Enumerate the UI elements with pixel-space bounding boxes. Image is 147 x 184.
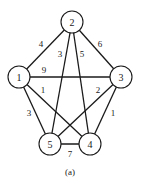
node-label: 3 <box>119 72 124 83</box>
edge-2-4 <box>72 22 90 144</box>
edge-weight-1-2: 4 <box>39 39 44 49</box>
edge-weight-1-4: 1 <box>41 85 46 95</box>
edge-weight-1-5: 3 <box>27 108 32 118</box>
edge-weight-3-4: 1 <box>111 108 116 118</box>
edge-weight-5-4: 7 <box>68 149 73 159</box>
node-label: 4 <box>88 139 93 150</box>
node-label: 5 <box>48 139 53 150</box>
figure-caption: (a) <box>65 167 75 177</box>
node-label: 2 <box>70 17 75 28</box>
edge-weight-2-4: 5 <box>80 49 85 59</box>
edges <box>19 22 121 144</box>
node-5: 5 <box>39 133 61 155</box>
weighted-graph-diagram: 4 3 5 6 9 1 2 3 1 7 1 2 3 4 5 <box>0 0 147 184</box>
node-4: 4 <box>79 133 101 155</box>
node-label: 1 <box>17 72 22 83</box>
node-1: 1 <box>8 66 30 88</box>
edge-weight-1-3: 9 <box>42 65 47 75</box>
node-3: 3 <box>110 66 132 88</box>
edge-weight-2-3: 6 <box>98 39 103 49</box>
nodes: 1 2 3 4 5 <box>8 11 132 155</box>
edge-weight-3-5: 2 <box>96 85 101 95</box>
edge-weight-2-5: 3 <box>58 49 63 59</box>
node-2: 2 <box>61 11 83 33</box>
